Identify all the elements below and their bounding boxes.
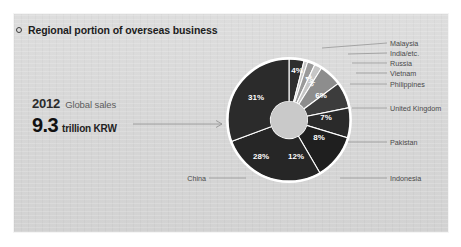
slice-label-28: 28%: [253, 152, 269, 161]
callout-russia: Russia: [352, 59, 412, 68]
slice-label-6: 6%: [315, 91, 327, 100]
callout-label-philippines: Philippines: [390, 80, 425, 89]
callout-uk: United Kingdom: [352, 104, 441, 113]
callout-philippines: Philippines: [350, 80, 425, 89]
donut-hole: [271, 102, 308, 139]
callout-pakistan: Pakistan: [348, 138, 418, 147]
callout-label-uk: United Kingdom: [390, 104, 441, 113]
callout-label-india: India/etc.: [390, 49, 419, 58]
callout-label-pakistan: Pakistan: [390, 138, 418, 147]
callout-label-russia: Russia: [390, 59, 412, 68]
kpi-pointer-arrow: [133, 121, 222, 128]
callout-china: China: [187, 174, 246, 183]
slice-label-4: 4%: [291, 66, 303, 75]
callout-label-vietnam: Vietnam: [390, 69, 416, 78]
callout-india: India/etc.: [348, 49, 419, 58]
slice-label-31: 31%: [248, 93, 264, 102]
slice-label-12: 12%: [288, 152, 304, 161]
callout-label-indonesia: Indonesia: [390, 174, 421, 183]
donut-chart: 31% 4% 2% 6% 7% 8% 12% 28% Malaysia Indi…: [0, 0, 461, 247]
callout-vietnam: Vietnam: [356, 69, 416, 78]
slice-label-7: 7%: [320, 113, 332, 122]
callout-indonesia: Indonesia: [340, 174, 421, 183]
callout-malaysia: Malaysia: [322, 39, 418, 49]
callout-label-malaysia: Malaysia: [390, 39, 418, 48]
callout-label-china: China: [187, 174, 206, 183]
slice-label-8: 8%: [313, 133, 325, 142]
